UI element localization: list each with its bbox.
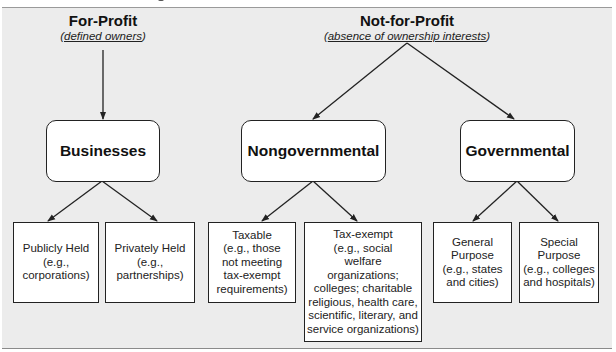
leaf-general-purpose: General Purpose (e.g., states and cities… [433,222,512,303]
leaf-taxable: Taxable (e.g., those not meeting tax-exe… [208,222,296,303]
leaf-text: Special Purpose (e.g., colleges and hosp… [523,236,595,290]
arrow-businesses-private [102,181,157,221]
arrow-nongov-taxable [262,181,313,221]
category-note: (defined owners) [43,30,163,43]
leaf-special-purpose: Special Purpose (e.g., colleges and hosp… [519,222,599,303]
arrow-gov-special [517,181,558,221]
group-businesses: Businesses [46,120,160,182]
leaf-text: Publicly Held (e.g., corporations) [22,242,89,283]
leaf-publicly-held: Publicly Held (e.g., corporations) [13,222,99,303]
arrow-nongov-taxexempt [313,181,357,221]
group-governmental: Governmental [460,120,575,182]
category-note: (absence of ownership interests) [317,30,497,43]
category-title: For-Profit [43,12,163,30]
category-title: Not-for-Profit [317,12,497,30]
leaf-tax-exempt: Tax-exempt (e.g., social welfare organiz… [304,222,422,342]
leaf-privately-held: Privately Held (e.g., partnerships) [105,222,195,303]
group-nongovernmental: Nongovernmental [241,120,386,182]
arrow-nfp-nongovernmental [313,43,407,119]
arrow-gov-general [473,181,517,221]
arrow-businesses-public [48,181,102,221]
leaf-text: Taxable (e.g., those not meeting tax-exe… [217,229,288,297]
category-for-profit: For-Profit (defined owners) [43,12,163,43]
arrow-nfp-governmental [407,43,514,119]
leaf-text: Tax-exempt (e.g., social welfare organiz… [307,228,419,336]
leaf-text: General Purpose (e.g., states and cities… [442,236,502,290]
leaf-text: Privately Held (e.g., partnerships) [115,242,186,283]
category-not-for-profit: Not-for-Profit (absence of ownership int… [317,12,497,43]
